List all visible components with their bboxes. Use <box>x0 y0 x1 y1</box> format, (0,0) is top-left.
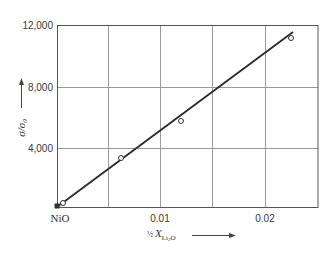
x-tick-label: 0.01 <box>150 213 170 224</box>
data-point <box>289 36 294 41</box>
y-axis-label-text: σ/σ <box>15 122 27 136</box>
fit-line <box>57 32 293 207</box>
y-axis-arrow-icon <box>19 78 24 108</box>
x-axis-label-fraction: ½ <box>147 230 153 239</box>
plot-frame <box>58 26 319 208</box>
grid <box>57 25 318 208</box>
x-origin-label: NiO <box>51 212 70 224</box>
data-point <box>119 156 124 161</box>
x-axis-sub3: O <box>170 234 175 242</box>
y-axis-label: σ/σ0 <box>15 119 29 137</box>
x-tick-label: 0.02 <box>255 213 275 224</box>
y-tick-label: 8,000 <box>28 82 53 93</box>
x-axis-label-text: XLi2O <box>154 227 176 242</box>
y-tick-label: 4,000 <box>28 143 53 154</box>
x-axis-label: ½ XLi2O <box>147 227 176 242</box>
x-axis-arrow-icon <box>192 233 236 238</box>
data-point <box>61 201 66 206</box>
conductivity-chart: 12,000 8,000 4,000 NiO 0.01 0.02 σ/σ0 ½ … <box>0 0 330 255</box>
svg-text:σ/σ0: σ/σ0 <box>15 119 29 137</box>
y-axis-label-sub: 0 <box>21 119 29 123</box>
data-point-nio <box>55 204 59 208</box>
data-point <box>179 119 184 124</box>
y-tick-label: 12,000 <box>22 20 53 31</box>
